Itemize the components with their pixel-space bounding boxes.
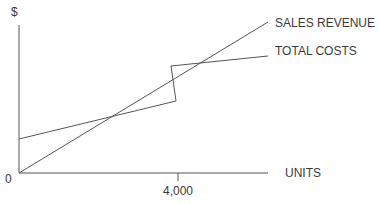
sales-revenue-label: SALES REVENUE — [275, 17, 375, 29]
sales-revenue-line — [19, 22, 268, 173]
y-axis-label: $ — [11, 6, 18, 18]
origin-label: 0 — [5, 173, 12, 185]
total-costs-label: TOTAL COSTS — [275, 45, 357, 57]
break-even-chart — [0, 0, 380, 204]
x-axis-label: UNITS — [285, 167, 321, 179]
x-tick-label-4000: 4,000 — [163, 185, 193, 197]
